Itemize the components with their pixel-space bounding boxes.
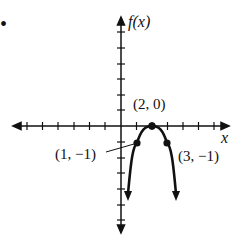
point-2-0 (148, 122, 156, 130)
curve-left-arrow-icon (124, 191, 132, 201)
y-axis (118, 17, 125, 233)
y-axis-down-arrow-icon (118, 225, 125, 233)
curve-right-arrow-icon (172, 191, 180, 201)
left-point-label: (1, −1) (55, 147, 96, 162)
right-point-label: (3, −1) (178, 149, 219, 164)
x-axis-label: x (221, 130, 228, 146)
x-axis-left-arrow-icon (13, 123, 21, 130)
y-axis-label: f(x) (128, 14, 150, 30)
point-3-neg1 (163, 139, 170, 146)
function-curve (128, 126, 176, 194)
vertex-label: (2, 0) (133, 97, 166, 112)
function-graph (0, 0, 246, 236)
point-1-neg1 (133, 139, 140, 146)
y-axis-up-arrow-icon (118, 17, 125, 25)
left-point-leader-line (106, 144, 134, 152)
